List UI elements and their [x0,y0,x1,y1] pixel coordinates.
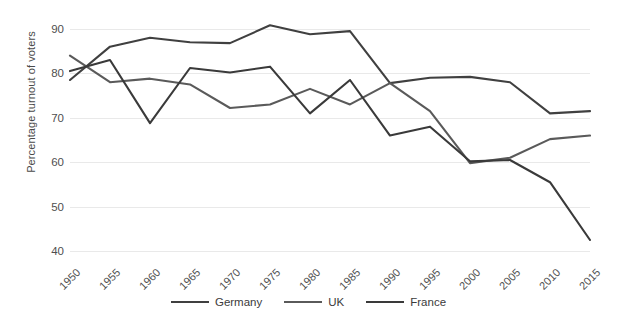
series-lines [55,20,600,260]
x-axis-tick-label: 2000 [453,266,483,296]
turnout-line-chart: Percentage turnout of voters 40506070809… [0,0,617,321]
legend-swatch-uk [284,301,322,303]
x-axis-tick-label: 1950 [53,266,83,296]
x-axis-tick-label: 1995 [413,266,443,296]
legend-item-uk[interactable]: UK [284,296,344,308]
x-axis-tick-label: 2015 [573,266,603,296]
series-line-germany [70,25,590,113]
y-axis-label: Percentage turnout of voters [25,0,37,217]
series-line-france [70,60,590,240]
x-axis-tick-label: 1955 [93,266,123,296]
legend-label-france: France [410,296,446,308]
x-axis-tick-label: 1990 [373,266,403,296]
series-line-uk [70,56,590,164]
plot-area: 405060708090 195019551960196519701975198… [55,20,600,260]
legend-swatch-germany [171,301,209,303]
legend-item-france[interactable]: France [366,296,446,308]
x-axis-tick-label: 1970 [213,266,243,296]
x-axis-tick-label: 1960 [133,266,163,296]
x-axis-tick-label: 1975 [253,266,283,296]
chart-legend: Germany UK France [0,296,617,308]
x-axis-tick-label: 1965 [173,266,203,296]
x-axis-tick-label: 2005 [493,266,523,296]
legend-item-germany[interactable]: Germany [171,296,262,308]
legend-label-germany: Germany [215,296,262,308]
x-axis-tick-label: 1980 [293,266,323,296]
legend-label-uk: UK [328,296,344,308]
x-axis-tick-label: 1985 [333,266,363,296]
legend-swatch-france [366,301,404,303]
x-axis-tick-label: 2010 [533,266,563,296]
